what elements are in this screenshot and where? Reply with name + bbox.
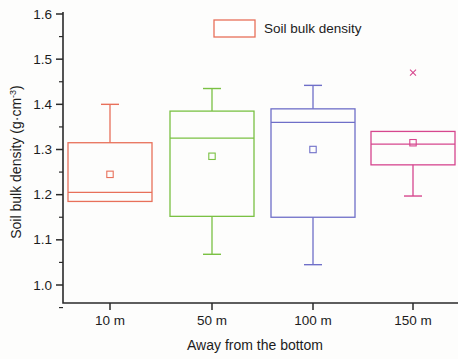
mean-marker <box>209 153 215 159</box>
y-tick-label: 1.3 <box>33 142 52 157</box>
box-plot-50m <box>170 89 254 255</box>
x-tick-label: 100 m <box>294 313 332 328</box>
box-iqr <box>170 111 254 216</box>
box-series-layer <box>68 70 455 265</box>
outlier-point <box>410 70 416 76</box>
box-plot-figure: 1.01.11.21.31.41.51.6 10 m50 m100 m150 m… <box>0 0 458 359</box>
box-iqr <box>271 109 355 217</box>
y-tick-label: 1.1 <box>33 232 52 247</box>
mean-marker <box>410 140 416 146</box>
box-plot-150m <box>371 70 455 196</box>
legend-label: Soil bulk density <box>264 21 362 36</box>
y-tick-label: 1.6 <box>33 7 52 22</box>
x-tick-label: 150 m <box>394 313 432 328</box>
legend-swatch <box>214 20 255 37</box>
box-iqr <box>371 131 455 164</box>
box-plot-100m <box>271 85 355 264</box>
axis-layer <box>63 12 458 303</box>
x-tick-label: 50 m <box>197 313 227 328</box>
y-tick-label: 1.5 <box>33 52 52 67</box>
chart-legend: Soil bulk density <box>214 20 362 37</box>
x-tick-label: 10 m <box>95 313 125 328</box>
y-tick-label: 1.4 <box>33 97 52 112</box>
box-plot-10m <box>68 104 152 201</box>
y-tick-label: 1.2 <box>33 187 52 202</box>
x-axis-title: Away from the bottom <box>187 337 323 353</box>
axis-label-layer: Away from the bottomSoil bulk density (g… <box>8 85 323 353</box>
axis-frame <box>63 12 458 303</box>
x-tick-layer: 10 m50 m100 m150 m <box>95 303 432 328</box>
y-tick-label: 1.0 <box>33 278 52 293</box>
mean-marker <box>310 146 316 152</box>
mean-marker <box>107 171 113 177</box>
y-tick-layer: 1.01.11.21.31.41.51.6 <box>33 7 63 308</box>
y-axis-title: Soil bulk density (g·cm-3) <box>8 85 24 239</box>
chart-canvas: 1.01.11.21.31.41.51.6 10 m50 m100 m150 m… <box>0 0 458 359</box>
